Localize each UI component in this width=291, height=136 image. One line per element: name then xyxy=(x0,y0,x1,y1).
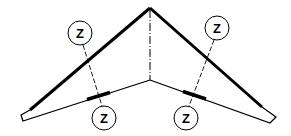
marker-label: Z xyxy=(182,111,190,126)
marker-right-top: Z xyxy=(205,16,229,40)
wing-diagram: Z Z Z Z xyxy=(0,0,291,136)
marker-left-top: Z xyxy=(68,21,92,45)
marker-left-bottom: Z xyxy=(92,106,116,130)
marker-right-bottom: Z xyxy=(174,106,198,130)
marker-label: Z xyxy=(100,111,108,126)
left-leading-edge xyxy=(30,8,150,110)
marker-label: Z xyxy=(76,26,84,41)
marker-label: Z xyxy=(213,21,221,36)
